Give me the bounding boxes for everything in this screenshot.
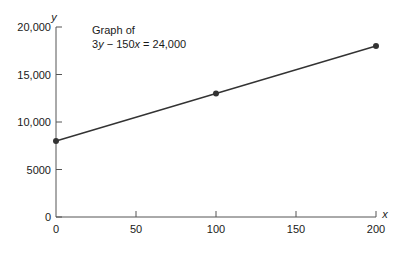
- chart-annotation: Graph of 3y − 150x = 24,000: [92, 23, 186, 51]
- y-axis-label: y: [50, 11, 58, 23]
- x-tick-label: 100: [207, 223, 225, 235]
- x-tick-label: 200: [367, 223, 385, 235]
- data-point-marker: [53, 138, 59, 144]
- eq-part: − 150: [104, 38, 135, 50]
- data-point-marker: [213, 91, 219, 97]
- x-tick-label: 50: [130, 223, 142, 235]
- eq-part: = 24,000: [140, 38, 186, 50]
- line-chart: 0500010,00015,00020,000050100150200yx: [0, 0, 399, 253]
- y-tick-label: 10,000: [17, 116, 51, 128]
- x-tick-label: 0: [53, 223, 59, 235]
- x-tick-label: 150: [287, 223, 305, 235]
- axes: 0500010,00015,00020,000050100150200yx: [17, 11, 388, 235]
- y-tick-label: 5000: [27, 164, 51, 176]
- y-tick-label: 15,000: [17, 69, 51, 81]
- annotation-line1: Graph of: [92, 23, 186, 37]
- data-series: [53, 43, 379, 144]
- y-tick-label: 0: [45, 211, 51, 223]
- y-tick-label: 20,000: [17, 21, 51, 33]
- annotation-equation: 3y − 150x = 24,000: [92, 37, 186, 51]
- x-axis-label: x: [381, 208, 388, 220]
- data-point-marker: [373, 43, 379, 49]
